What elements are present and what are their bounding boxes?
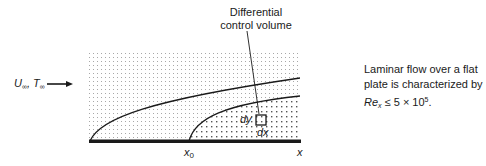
control-volume-callout: Differential control volume — [200, 6, 312, 32]
reynolds-end: . — [429, 96, 432, 108]
note-line-1: Laminar flow over a flat — [364, 62, 486, 77]
velocity-symbol: U — [14, 77, 22, 89]
x0-label: x0 — [184, 146, 194, 162]
x-label: x — [297, 146, 303, 159]
x0-subscript: 0 — [190, 151, 194, 160]
freestream-arrow-head-icon — [66, 81, 73, 87]
dy-label: dy — [240, 113, 252, 126]
callout-line-1: Differential — [200, 6, 312, 19]
laminar-flow-note: Laminar flow over a flat plate is charac… — [364, 62, 486, 113]
temperature-symbol: T — [33, 77, 40, 89]
dx-label: dx — [257, 126, 269, 139]
flat-plate — [89, 140, 301, 144]
freestream-label: U∞, T∞ — [14, 77, 45, 93]
reynolds-relation: ≤ 5 × 10 — [382, 96, 425, 108]
note-line-2: plate is characterized by — [364, 77, 486, 92]
temperature-subscript: ∞ — [40, 83, 45, 90]
reynolds-symbol: Re — [364, 96, 378, 108]
callout-line-2: control volume — [200, 19, 312, 32]
reynolds-criterion: Rex ≤ 5 × 105. — [364, 92, 486, 113]
